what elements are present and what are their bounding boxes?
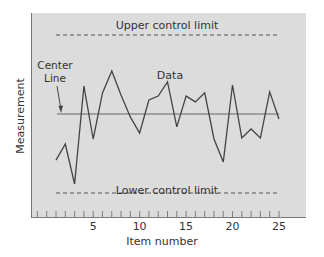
- center-line-label-1: Center: [37, 59, 73, 71]
- x-tick-label: 25: [272, 220, 286, 233]
- y-axis-title: Measurement: [14, 78, 27, 154]
- x-tick-label: 5: [90, 220, 97, 233]
- x-tick-label: 10: [133, 220, 147, 233]
- data-label: Data: [157, 69, 183, 82]
- x-axis-title: Item number: [126, 235, 198, 248]
- control-chart: 510152025 Upper control limit Lower cont…: [0, 0, 324, 257]
- x-tick-label: 20: [226, 220, 240, 233]
- ucl-label: Upper control limit: [116, 19, 219, 32]
- x-tick-label: 15: [179, 220, 193, 233]
- x-axis-tick-labels: 510152025: [90, 220, 286, 233]
- center-line-label-2: Line: [44, 72, 66, 84]
- lcl-label: Lower control limit: [116, 184, 219, 197]
